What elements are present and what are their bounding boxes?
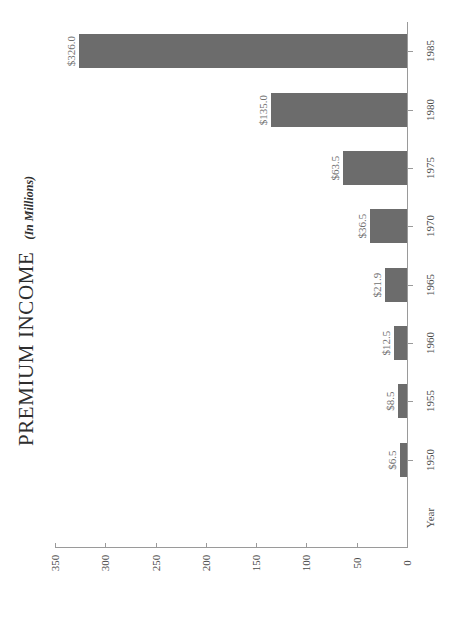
bar-value-label: $63.5 <box>328 140 342 196</box>
category-axis-tick <box>408 460 413 461</box>
category-axis-label: 1965 <box>423 265 437 305</box>
value-axis-label: 50 <box>350 543 364 583</box>
category-axis-label: 1975 <box>423 148 437 188</box>
value-axis-label: 150 <box>249 543 263 583</box>
bar <box>271 93 407 127</box>
chart-subtitle: (In Millions) <box>22 176 37 240</box>
bar-value-label: $12.5 <box>379 315 393 371</box>
category-axis-tick <box>408 401 413 402</box>
bar <box>370 209 407 243</box>
value-axis-label: 300 <box>98 543 112 583</box>
bar-value-label: $36.5 <box>355 198 369 254</box>
bar <box>385 268 407 302</box>
category-axis-tick <box>408 110 413 111</box>
category-axis-tick <box>408 226 413 227</box>
premium-income-bar-chart: PREMIUM INCOME (In Millions) 35030025020… <box>0 0 450 619</box>
chart-title: PREMIUM INCOME <box>14 252 39 447</box>
bar-value-label: $135.0 <box>256 82 270 138</box>
bar <box>394 326 407 360</box>
bar <box>398 384 407 418</box>
category-axis-tick <box>408 343 413 344</box>
bar-value-label: $326.0 <box>64 23 78 79</box>
bar <box>400 443 407 477</box>
category-axis-tick <box>408 51 413 52</box>
category-axis-label: 1955 <box>423 381 437 421</box>
bar-value-label: $6.5 <box>385 432 399 488</box>
category-axis-label: 1950 <box>423 440 437 480</box>
bar-value-label: $8.5 <box>383 373 397 429</box>
bar-value-label: $21.9 <box>370 257 384 313</box>
bar <box>79 34 407 68</box>
value-axis-label: 350 <box>48 543 62 583</box>
category-axis-tick <box>408 285 413 286</box>
bar <box>343 151 407 185</box>
category-axis-label: 1985 <box>423 31 437 71</box>
category-axis-label: 1960 <box>423 323 437 363</box>
category-axis-tick <box>408 168 413 169</box>
category-axis-label: 1970 <box>423 206 437 246</box>
value-axis-label: 100 <box>299 543 313 583</box>
value-axis-label: 200 <box>199 543 213 583</box>
value-axis-label: 250 <box>149 543 163 583</box>
value-axis-label: 0 <box>400 543 414 583</box>
chart-title-block: PREMIUM INCOME (In Millions) <box>14 21 54 601</box>
category-axis-label: 1980 <box>423 90 437 130</box>
category-axis-title: Year <box>423 496 437 540</box>
